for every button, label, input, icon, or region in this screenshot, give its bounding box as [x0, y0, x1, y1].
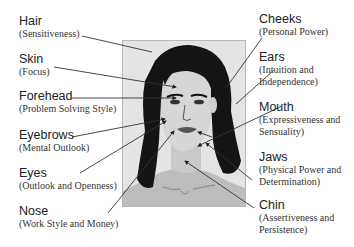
label-meaning-line2: Sensuality) — [259, 126, 340, 138]
label-title: Chin — [259, 198, 334, 212]
label-title: Eyebrows — [19, 128, 89, 142]
label-title: Cheeks — [259, 12, 328, 26]
label-meaning: (Sensitiveness) — [19, 28, 80, 40]
label-meaning-line2: Independence) — [259, 76, 318, 88]
label-meaning: (Personal Power) — [259, 26, 328, 38]
label-forehead: Forehead (Problem Solving Style) — [19, 89, 116, 115]
label-title: Mouth — [259, 100, 340, 114]
chin-leader-line — [185, 161, 254, 208]
cheek-arrow — [198, 132, 212, 137]
label-meaning: (Problem Solving Style) — [19, 103, 116, 115]
nose-leader-line — [108, 131, 174, 213]
label-meaning-line1: (Assertiveness and — [259, 212, 334, 224]
label-title: Ears — [259, 50, 318, 64]
label-jaws: Jaws (Physical Power and Determination) — [259, 150, 341, 188]
label-mouth: Mouth (Expressiveness and Sensuality) — [259, 100, 340, 138]
cheeks-leader-line — [226, 38, 262, 88]
label-ears: Ears (Intuition and Independence) — [259, 50, 318, 88]
label-eyebrows: Eyebrows (Mental Outlook) — [19, 128, 89, 154]
label-title: Nose — [19, 204, 118, 218]
label-meaning-line1: (Intuition and — [259, 64, 318, 76]
label-chin: Chin (Assertiveness and Persistence) — [259, 198, 334, 236]
label-title: Eyes — [19, 166, 117, 180]
label-meaning: (Mental Outlook) — [19, 142, 89, 154]
label-meaning: (Outlook and Openness) — [19, 180, 117, 192]
label-meaning-line2: Determination) — [259, 176, 341, 188]
skin-leader-line — [54, 67, 176, 87]
label-meaning-line1: (Physical Power and — [259, 164, 341, 176]
label-eyes: Eyes (Outlook and Openness) — [19, 166, 117, 192]
label-hair: Hair (Sensitiveness) — [19, 14, 80, 40]
label-meaning-line1: (Expressiveness and — [259, 114, 340, 126]
label-meaning-line2: Persistence) — [259, 224, 334, 236]
label-title: Hair — [19, 14, 80, 28]
label-meaning: (Focus) — [19, 66, 50, 78]
label-title: Jaws — [259, 150, 341, 164]
label-title: Forehead — [19, 89, 116, 103]
label-skin: Skin (Focus) — [19, 52, 50, 78]
label-cheeks: Cheeks (Personal Power) — [259, 12, 328, 38]
label-nose: Nose (Work Style and Money) — [19, 204, 118, 230]
jaws-leader-line — [206, 143, 252, 180]
label-title: Skin — [19, 52, 50, 66]
hair-leader-line — [82, 36, 152, 52]
face-reading-diagram: Hair (Sensitiveness) Skin (Focus) Forehe… — [0, 0, 354, 247]
label-meaning: (Work Style and Money) — [19, 218, 118, 230]
